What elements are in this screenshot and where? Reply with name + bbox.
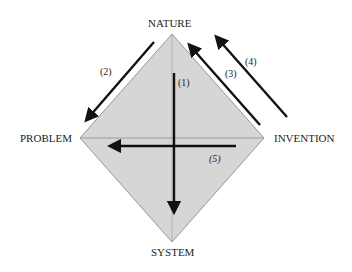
- arrow-4-label: (4): [245, 56, 257, 67]
- vertex-problem-label: PROBLEM: [20, 132, 72, 144]
- vertex-nature-label: NATURE: [148, 17, 191, 29]
- diagram-canvas: NATURE PROBLEM INVENTION SYSTEM (1) (2) …: [0, 0, 352, 272]
- arrow-5-label: (5): [209, 153, 221, 164]
- arrow-3-label: (3): [225, 68, 237, 79]
- arrow-2-label: (2): [100, 66, 112, 77]
- vertex-invention-label: INVENTION: [274, 132, 334, 144]
- vertex-system-label: SYSTEM: [151, 246, 194, 258]
- arrow-1-label: (1): [178, 77, 190, 88]
